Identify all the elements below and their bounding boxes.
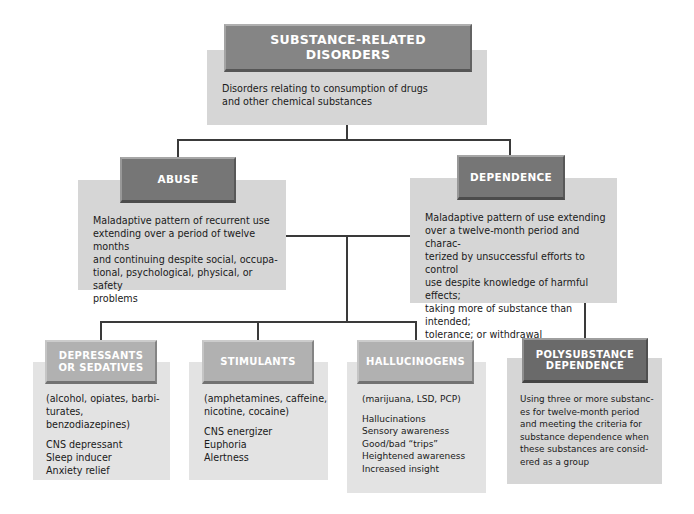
- depressants-title-line1: DEPRESSANTS: [59, 350, 143, 362]
- depressants-title-line2: OR SEDATIVES: [59, 362, 144, 374]
- stimulants-node-header: STIMULANTS: [202, 340, 314, 384]
- depressants-node-header: DEPRESSANTS OR SEDATIVES: [45, 340, 157, 384]
- dependence-node-header: DEPENDENCE: [457, 155, 565, 200]
- root-node-header: SUBSTANCE-RELATED DISORDERS: [224, 24, 472, 72]
- hallucinogens-node-content: (marijuana, LSD, PCP) Hallucinations Sen…: [362, 393, 486, 475]
- stimulants-node-content: (amphetamines, caffeine, nicotine, cocai…: [204, 392, 328, 464]
- abuse-node-description: Maladaptive pattern of recurrent use ext…: [93, 214, 283, 305]
- dependence-node-title: DEPENDENCE: [470, 171, 552, 183]
- connector-middle-down: [346, 235, 348, 323]
- root-node-description: Disorders relating to consumption of dru…: [222, 82, 472, 108]
- connector-to-depressants: [100, 321, 102, 341]
- connector-to-hallucinogens: [415, 321, 417, 341]
- dependence-node-description: Maladaptive pattern of use extending ove…: [425, 211, 615, 341]
- connector-level1-horizontal: [177, 139, 510, 141]
- root-node-title: SUBSTANCE-RELATED DISORDERS: [226, 33, 470, 62]
- hallucinogens-node-header: HALLUCINOGENS: [357, 340, 474, 384]
- abuse-node-title: ABUSE: [158, 173, 199, 185]
- abuse-node-header: ABUSE: [120, 157, 236, 203]
- polysubstance-title-line2: DEPENDENCE: [546, 360, 624, 372]
- polysubstance-node-header: POLYSUBSTANCE DEPENDENCE: [522, 338, 648, 383]
- polysubstance-node-description: Using three or more substanc- es for twe…: [520, 393, 660, 468]
- connector-to-abuse: [177, 139, 179, 158]
- depressants-node-content: (alcohol, opiates, barbi- turates, benzo…: [46, 392, 170, 477]
- connector-to-dependence: [509, 139, 511, 156]
- stimulants-node-title: STIMULANTS: [220, 356, 295, 368]
- connector-to-stimulants: [257, 321, 259, 341]
- polysubstance-title-line1: POLYSUBSTANCE: [536, 349, 634, 361]
- connector-abuse-to-dependence: [286, 235, 410, 237]
- connector-root-down: [346, 125, 348, 140]
- hallucinogens-node-title: HALLUCINOGENS: [366, 356, 465, 368]
